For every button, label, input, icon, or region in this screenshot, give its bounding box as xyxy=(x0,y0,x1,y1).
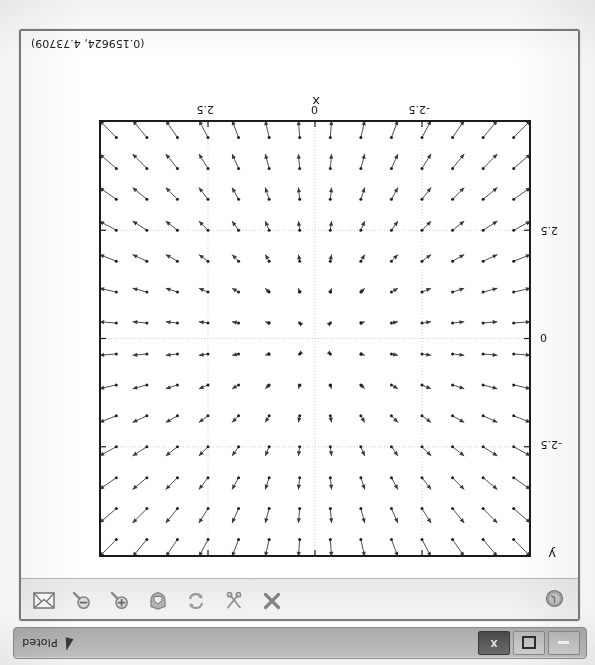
minimize-icon xyxy=(559,642,570,645)
refresh-icon[interactable] xyxy=(183,588,209,614)
plot-toolbar xyxy=(21,578,578,619)
pen-icon xyxy=(64,635,76,651)
screen-rotated-content: X Ploted xyxy=(0,0,595,665)
plot-canvas-area[interactable]: (0.159624, 4.73709) x -2.5 0 2.5 y -2.5 … xyxy=(21,31,578,578)
taskbar-window-controls: X xyxy=(478,631,580,655)
plot-application-window: (0.159624, 4.73709) x -2.5 0 2.5 y -2.5 … xyxy=(19,29,580,621)
x-tick-label-zero: 0 xyxy=(311,103,318,116)
zoom-in-icon[interactable] xyxy=(107,588,133,614)
desktop-taskbar: X Ploted xyxy=(13,627,587,659)
y-tick-label-neg: -2.5 xyxy=(541,438,562,451)
y-tick-label-pos: 2.5 xyxy=(541,224,559,237)
home-icon[interactable] xyxy=(145,588,171,614)
y-axis-label: y xyxy=(548,547,556,562)
maximize-button[interactable] xyxy=(513,631,545,655)
taskbar-app-area: Ploted xyxy=(22,628,76,658)
cut-icon[interactable] xyxy=(221,588,247,614)
toolbar-left-group xyxy=(542,586,568,612)
about-icon[interactable] xyxy=(542,586,568,612)
coordinate-readout: (0.159624, 4.73709) xyxy=(31,37,145,50)
y-tick-label-zero: 0 xyxy=(540,331,547,344)
save-icon[interactable] xyxy=(31,588,57,614)
minimize-button[interactable] xyxy=(548,631,580,655)
close-icon[interactable] xyxy=(259,588,285,614)
maximize-icon xyxy=(522,637,536,650)
x-tick-label-pos: 2.5 xyxy=(197,103,215,116)
quiver-svg xyxy=(101,122,529,555)
toolbar-right-group xyxy=(31,588,285,614)
close-window-button[interactable]: X xyxy=(478,631,510,655)
vector-field-plot[interactable] xyxy=(99,120,531,557)
zoom-out-icon[interactable] xyxy=(69,588,95,614)
close-window-label: X xyxy=(491,638,498,648)
x-tick-label-neg: -2.5 xyxy=(409,103,430,116)
taskbar-app-name: Ploted xyxy=(22,637,58,650)
